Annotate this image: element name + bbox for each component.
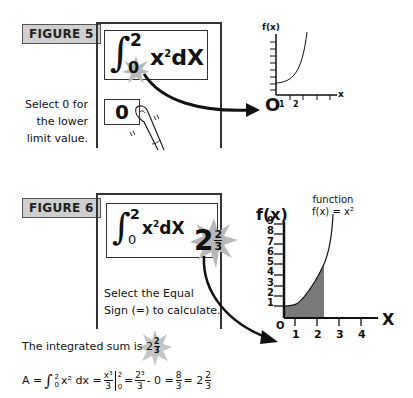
x-tick: 4 (358, 328, 366, 341)
formula-upper: 2 (55, 373, 59, 381)
instruction-line: limit value. (6, 130, 88, 147)
numerator: 2³ (135, 370, 144, 381)
denominator: 3 (205, 381, 211, 391)
instruction-line: Select 0 for (6, 96, 88, 113)
numerator: 8 (176, 370, 182, 381)
fraction: 2³ 3 (135, 370, 144, 391)
figure-6-panel-left (96, 193, 98, 329)
area-formula: A = ∫ 2 0 x² dx = x³ 3 2 0 = 2³ 3 - 0 = … (22, 370, 211, 391)
eval-lower: 0 (118, 383, 122, 391)
formula-limits: 2 0 (55, 373, 59, 389)
instruction-line: the lower (6, 113, 88, 130)
figure-6-panel-top (96, 193, 220, 195)
figure-5-x-tick-1: 1 (279, 100, 285, 109)
figure-6-origin-label: O (276, 320, 285, 331)
integrand-variable: x (142, 218, 153, 238)
differential: dX (171, 45, 204, 70)
numerator: 2 (205, 370, 211, 381)
figure-6-y-ticks: 9 8 7 6 5 4 3 2 1 (264, 216, 274, 309)
x-tick: 1 (292, 328, 300, 341)
figure-6-label: FIGURE 6 (22, 198, 101, 218)
figure-5-panel-left (96, 22, 98, 148)
fraction: 2 3 (205, 370, 211, 391)
figure-5-instruction: Select 0 for the lower limit value. (6, 96, 88, 147)
zero-key-label: 0 (115, 100, 129, 124)
x-tick: 2 (314, 328, 322, 341)
equals: = (124, 374, 133, 387)
arrow-icon (142, 72, 262, 122)
evaluation-bar: 2 0 (115, 371, 122, 391)
result-sentence-fraction: 2 3 (154, 338, 160, 355)
figure-6-x-label: X (382, 310, 394, 329)
result-sentence: The integrated sum is 2 2 3 (22, 338, 160, 355)
result-fraction: 2 3 (214, 229, 222, 252)
eval-upper: 2 (118, 371, 122, 379)
formula-lhs: A = (22, 374, 42, 387)
y-tick: 1 (264, 298, 274, 308)
formula-integral-sign: ∫ (44, 371, 52, 390)
figure-5-x-tick-2: 2 (293, 100, 299, 109)
upper-limit: 2 (130, 206, 140, 222)
equals-two: = 2 (184, 374, 204, 387)
figure-5-panel-top (96, 22, 220, 24)
lower-limit: 0 (128, 58, 139, 77)
numerator: x³ (104, 370, 113, 381)
figure-5-x-label: x (338, 89, 344, 99)
result-display: 2 2 3 (194, 224, 222, 257)
fraction: 8 3 (176, 370, 182, 391)
denominator: 3 (176, 381, 182, 391)
denominator: 3 (105, 381, 111, 391)
integrand: x2dX (142, 218, 185, 238)
result-sentence-text: The integrated sum is 2 (22, 338, 153, 355)
denominator: 3 (137, 381, 143, 391)
x-tick: 3 (336, 328, 344, 341)
formula-body: x² dx = (61, 374, 102, 387)
differential: dX (159, 218, 184, 238)
denominator: 3 (154, 347, 160, 355)
result-whole: 2 (194, 224, 213, 257)
integrand-variable: x (150, 45, 164, 70)
lower-limit: 0 (128, 232, 136, 247)
figure-5-label: FIGURE 5 (22, 24, 101, 44)
upper-limit: 2 (130, 30, 142, 50)
integrand: x2dX (150, 45, 204, 70)
annotation-line-1: function (312, 194, 354, 206)
figure-5-graph (262, 30, 342, 102)
formula-lower: 0 (55, 381, 59, 389)
minus-zero: - 0 = (147, 374, 174, 387)
fraction: x³ 3 (104, 370, 113, 391)
result-denominator: 3 (214, 241, 222, 252)
